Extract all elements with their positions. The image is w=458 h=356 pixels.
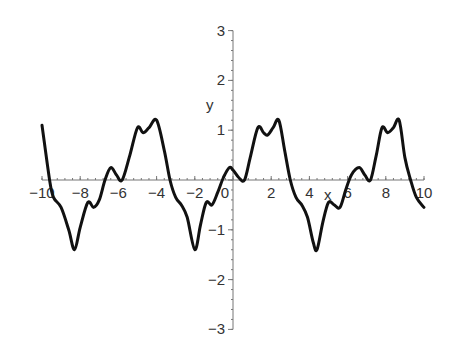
x-tick-label: −2 bbox=[186, 184, 203, 201]
x-tick-labels: −10−8−6−4−20246810 bbox=[29, 184, 432, 201]
y-tick-label: 1 bbox=[217, 121, 225, 138]
y-tick-label: 2 bbox=[217, 71, 225, 88]
x-tick-label: 8 bbox=[382, 184, 390, 201]
y-tick-label: 3 bbox=[217, 22, 225, 39]
x-tick-label: −6 bbox=[110, 184, 127, 201]
x-tick-label: 0 bbox=[221, 184, 229, 201]
x-tick-label: 4 bbox=[305, 184, 313, 201]
x-tick-label: −4 bbox=[148, 184, 165, 201]
y-tick-label: −2 bbox=[208, 271, 225, 288]
y-tick-label: −3 bbox=[208, 320, 225, 337]
chart-canvas: −10−8−6−4−20246810 −3−2−1123 x y bbox=[0, 0, 458, 356]
x-tick-label: 2 bbox=[267, 184, 275, 201]
y-tick-label: −1 bbox=[208, 221, 225, 238]
y-axis bbox=[228, 31, 233, 330]
x-tick-label: −8 bbox=[72, 184, 89, 201]
y-axis-label: y bbox=[206, 96, 214, 113]
